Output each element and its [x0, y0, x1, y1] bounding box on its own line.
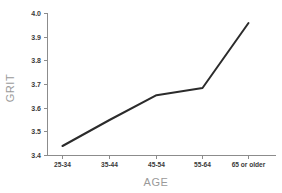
y-axis-title: GRIT	[4, 74, 16, 103]
y-tick-label: 3.7	[31, 81, 41, 88]
x-tick-label: 65 or older	[232, 161, 266, 168]
y-tick-label: 3.9	[31, 34, 41, 41]
grit-by-age-line-chart: 4.0 3.9 3.8 3.7 3.6 3.5 3.4 25-34 35-44 …	[0, 0, 282, 193]
x-tick-label: 45-54	[148, 161, 165, 168]
x-axis-title: AGE	[143, 176, 168, 188]
chart-canvas: 4.0 3.9 3.8 3.7 3.6 3.5 3.4 25-34 35-44 …	[0, 0, 282, 193]
y-tick-label: 3.5	[31, 128, 41, 135]
y-tick-label: 3.8	[31, 57, 41, 64]
x-tick-label: 55-64	[194, 161, 211, 168]
y-tick-label: 3.4	[31, 152, 41, 159]
y-tick-label: 4.0	[31, 10, 41, 17]
y-tick-label: 3.6	[31, 105, 41, 112]
x-tick-label: 35-44	[101, 161, 118, 168]
x-tick-label: 25-34	[54, 161, 71, 168]
